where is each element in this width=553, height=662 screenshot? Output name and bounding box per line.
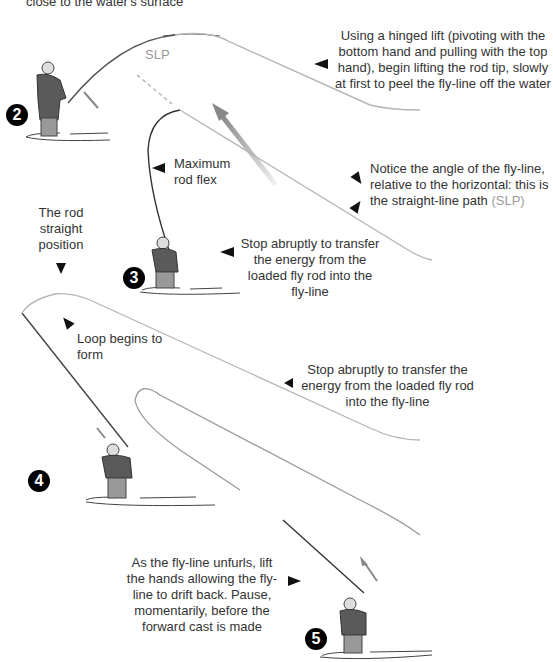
slp-notice-abbrev: (SLP) <box>491 193 524 208</box>
angler-step-5 <box>340 598 366 653</box>
loop-begins-label: Loop begins to form <box>77 331 167 363</box>
rod-bend-arrow-2 <box>84 92 98 108</box>
slp-notice: Notice the angle of the fly-line, relati… <box>370 161 553 209</box>
step-badge-2: 2 <box>6 104 28 126</box>
step-badge-3: 3 <box>123 267 145 289</box>
angler-step-4 <box>102 444 132 498</box>
step-3-caption: Stop abruptly to transfer the energy fro… <box>240 236 380 300</box>
step-badge-4: 4 <box>28 470 50 492</box>
pointer-arrow-step-4 <box>279 378 293 388</box>
step-badge-5: 5 <box>305 628 327 650</box>
fly-line-step-4-loop <box>135 389 420 535</box>
pointer-arrow-step-5 <box>288 576 301 586</box>
rod-straight-label: The rod straight position <box>26 205 96 253</box>
step-4-caption: Stop abruptly to transfer the energy fro… <box>300 362 475 410</box>
pointer-arrow-rod-straight <box>56 263 66 274</box>
pointer-arrow-step-2 <box>314 59 328 69</box>
angler-step-2 <box>37 62 66 136</box>
step-2-caption: Using a hinged lift (pivoting with the b… <box>334 28 552 92</box>
step-5-caption: As the fly-line unfurls, lift the hands … <box>122 555 282 635</box>
rod-recoil-mark-4 <box>97 428 105 438</box>
slp-label: SLP <box>145 47 170 63</box>
top-caption-fragment: close to the water's surface <box>26 0 266 10</box>
max-rod-flex-label: Maximum rod flex <box>174 156 244 188</box>
pointer-arrow-max-flex <box>152 163 165 173</box>
fly-casting-diagram: close to the water's surface 2 Using a h… <box>0 0 553 662</box>
slp-dashed-line <box>137 75 172 104</box>
pointer-arrow-step-3 <box>220 247 234 257</box>
angler-step-3 <box>152 237 178 288</box>
